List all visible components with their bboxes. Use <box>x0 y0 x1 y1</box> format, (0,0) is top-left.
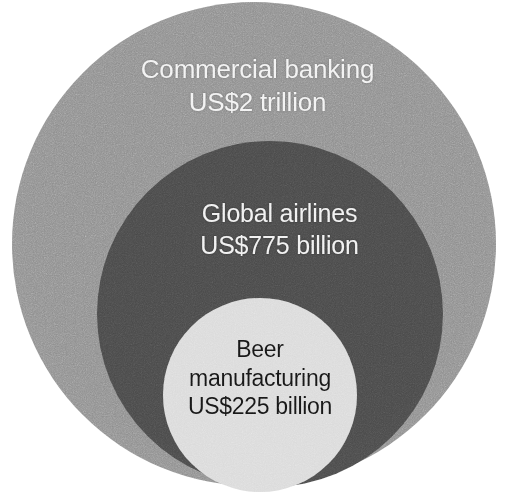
bubble-beer-manufacturing <box>163 298 357 492</box>
nested-circles-chart: Commercial banking US$2 trillion Global … <box>0 0 515 493</box>
